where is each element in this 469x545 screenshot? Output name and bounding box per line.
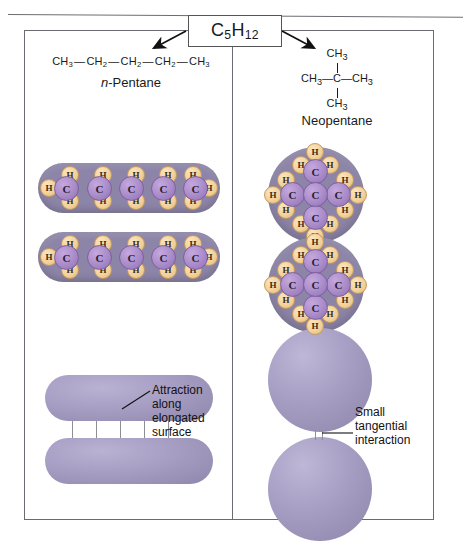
attraction-line xyxy=(120,421,121,438)
pentane-spacefill-model-bottom: H H H H H H H H H H H H C C C C C xyxy=(38,232,220,282)
formula-hydrogen-symbol: H xyxy=(231,20,244,40)
carbon-atom: C xyxy=(326,272,351,297)
pentane-blob-bottom xyxy=(45,438,213,484)
callout-line: interaction xyxy=(355,433,435,447)
pentane-structural-formula: CH3 — CH2 — CH2 — CH2 — CH3 xyxy=(36,55,226,69)
formula-carbon-symbol: C xyxy=(211,20,224,40)
callout-line: Small xyxy=(355,405,435,419)
carbon-atom: C xyxy=(303,249,328,274)
carbon-atom: C xyxy=(151,176,176,201)
neopentane-bottom-group: CH3 xyxy=(244,98,430,113)
molecular-formula-box: C5H12 xyxy=(188,15,282,47)
attraction-callout-label: Attraction along elongated surface xyxy=(152,383,226,439)
pentane-unit-3: CH2 xyxy=(121,55,142,67)
pentane-name-rest: -Pentane xyxy=(108,75,161,90)
neopentane-right-group: CH3 xyxy=(352,72,373,84)
pentane-unit-5: CH3 xyxy=(189,55,210,67)
carbon-atom: C xyxy=(280,182,305,207)
pentane-isomer-figure: C5H12 CH3 — CH2 — CH2 — CH2 — CH3 n-Pent… xyxy=(0,0,469,545)
tangential-line xyxy=(315,430,316,440)
attraction-line xyxy=(96,421,97,438)
neopentane-center-carbon: C xyxy=(333,72,341,84)
neopentane-blob-bottom xyxy=(268,437,372,541)
carbon-atom: C xyxy=(303,159,328,184)
carbon-atom: C xyxy=(119,176,144,201)
carbon-atom: C xyxy=(326,182,351,207)
neopentane-name-label: Neopentane xyxy=(244,113,430,128)
attraction-line xyxy=(72,421,73,438)
pentane-spacefill-model-top: H H H H H H H H H H H H C C C C C xyxy=(38,163,220,213)
carbon-atom: C xyxy=(183,245,208,270)
callout-line: Attraction xyxy=(152,383,226,397)
formula-hydrogen-count: 12 xyxy=(245,28,259,42)
tangential-line xyxy=(322,430,323,440)
carbon-atom: C xyxy=(303,295,328,320)
tangential-callout-label: Small tangential interaction xyxy=(355,405,435,447)
neopentane-structural-formula: CH3 CH3—C—CH3 CH3 xyxy=(244,48,430,113)
neopentane-middle-row: CH3—C—CH3 xyxy=(244,73,430,88)
carbon-atom: C xyxy=(303,182,328,207)
panel-vertical-divider xyxy=(232,47,233,520)
carbon-atom: C xyxy=(87,245,112,270)
carbon-atom: C xyxy=(119,245,144,270)
neopentane-left-group: CH3 xyxy=(301,72,322,84)
callout-line: tangential xyxy=(355,419,435,433)
carbon-atom: C xyxy=(303,272,328,297)
callout-line: elongated xyxy=(152,411,226,425)
pentane-name-label: n-Pentane xyxy=(36,75,226,90)
carbon-atom: C xyxy=(280,272,305,297)
carbon-atom: C xyxy=(303,205,328,230)
attraction-line xyxy=(144,421,145,438)
callout-line: along xyxy=(152,397,226,411)
carbon-atom: C xyxy=(54,245,79,270)
hydrogen-atom: H xyxy=(349,186,367,204)
carbon-atom: C xyxy=(54,176,79,201)
pentane-unit-1: CH3 xyxy=(52,55,73,67)
neopentane-top-group: CH3 xyxy=(244,48,430,63)
neopentane-spacefill-model-top: H H H H H H H H H H H H C C C C C xyxy=(268,147,364,243)
neopentane-spacefill-model-bottom: H H H H H H H H H H H H C C C C C xyxy=(268,237,364,333)
carbon-atom: C xyxy=(183,176,208,201)
pentane-unit-2: CH2 xyxy=(86,55,107,67)
pentane-unit-4: CH2 xyxy=(155,55,176,67)
carbon-atom: C xyxy=(151,245,176,270)
callout-line: surface xyxy=(152,425,226,439)
hydrogen-atom: H xyxy=(349,276,367,294)
carbon-atom: C xyxy=(87,176,112,201)
molecular-formula-text: C5H12 xyxy=(211,20,259,42)
